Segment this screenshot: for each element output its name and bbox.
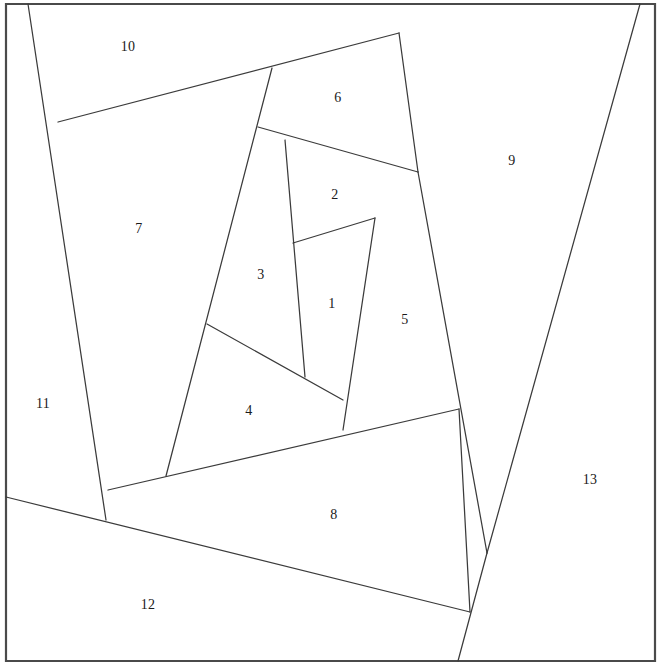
region-11-label: 11 (36, 396, 50, 411)
region-9-label: 9 (508, 153, 515, 168)
region-10-label: 10 (121, 39, 136, 54)
regions-group: 12345678910111213 (6, 4, 655, 661)
region-7-label: 7 (135, 221, 142, 236)
partition-diagram: 12345678910111213 (0, 0, 662, 671)
diagram-root: 12345678910111213 (0, 0, 662, 671)
region-2-label: 2 (331, 187, 338, 202)
region-8-label: 8 (330, 507, 337, 522)
region-12-label: 12 (141, 597, 156, 612)
region-3-label: 3 (257, 267, 264, 282)
region-5-label: 5 (401, 312, 408, 327)
region-4-label: 4 (245, 403, 252, 418)
region-6-label: 6 (334, 90, 341, 105)
region-13-label: 13 (583, 472, 598, 487)
region-1-label: 1 (328, 296, 335, 311)
